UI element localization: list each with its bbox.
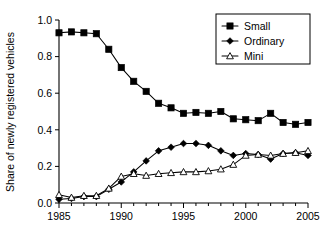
data-point-marker [218, 108, 224, 114]
data-point-marker [168, 105, 174, 111]
data-point-marker [156, 100, 162, 106]
data-point-marker [255, 118, 261, 124]
x-axis-ticks [59, 203, 308, 208]
y-tick-label: 0.8 [37, 50, 52, 62]
data-point-marker [243, 117, 249, 123]
data-point-marker [56, 191, 63, 197]
data-point-marker [131, 78, 137, 84]
data-point-marker [218, 148, 225, 155]
data-point-marker [205, 142, 212, 149]
legend-label: Ordinary [244, 35, 285, 47]
data-point-marker [193, 109, 199, 115]
data-point-marker [106, 46, 112, 52]
data-point-marker [230, 116, 236, 122]
y-axis-tick-labels: 0.00.20.40.60.81.0 [37, 14, 52, 209]
y-axis-title: Share of newly registered vehicles [4, 32, 16, 192]
x-tick-label: 1990 [110, 210, 134, 222]
data-point-marker [180, 110, 186, 116]
x-tick-label: 1985 [47, 210, 71, 222]
data-point-marker [230, 161, 237, 167]
data-point-marker [268, 110, 274, 116]
y-tick-label: 0.2 [37, 160, 52, 172]
data-point-marker [280, 119, 286, 125]
line-chart: 0.00.20.40.60.81.0 19851990199520002005 … [0, 0, 324, 237]
data-point-marker [143, 88, 149, 94]
y-axis-ticks [55, 20, 59, 203]
x-tick-label: 2005 [296, 210, 320, 222]
data-point-marker [193, 140, 200, 147]
y-tick-label: 0.0 [37, 197, 52, 209]
x-axis-tick-labels: 19851990199520002005 [47, 210, 320, 222]
data-point-marker [118, 64, 124, 70]
data-point-marker [305, 147, 312, 153]
y-tick-label: 0.6 [37, 87, 52, 99]
legend-marker [227, 23, 233, 29]
data-point-marker [56, 30, 62, 36]
data-point-marker [205, 110, 211, 116]
chart-legend: SmallOrdinaryMini [216, 14, 310, 64]
y-tick-label: 1.0 [37, 14, 52, 26]
data-point-marker [180, 140, 187, 147]
data-point-marker [292, 121, 298, 127]
data-point-marker [217, 166, 224, 172]
data-point-marker [168, 144, 175, 151]
legend-label: Mini [244, 50, 263, 62]
x-tick-label: 1995 [172, 210, 196, 222]
data-point-marker [305, 119, 311, 125]
data-point-marker [68, 29, 74, 35]
y-tick-label: 0.4 [37, 124, 52, 136]
data-point-marker [93, 31, 99, 37]
data-point-marker [230, 152, 237, 159]
data-series [56, 147, 312, 200]
legend-label: Small [244, 20, 270, 32]
data-point-marker [81, 30, 87, 36]
chart-figure: 0.00.20.40.60.81.0 19851990199520002005 … [0, 0, 324, 237]
x-tick-label: 2000 [234, 210, 258, 222]
